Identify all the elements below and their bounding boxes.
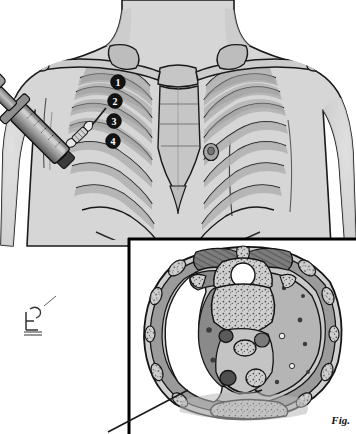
thoracentesis-figure: 1 2 3 4 [0,0,356,434]
esophagus [234,340,256,356]
marker-3-label: 3 [112,116,117,127]
marker-2-label: 2 [113,96,118,107]
cross-section-content [144,246,342,421]
nipple-right [204,144,219,161]
marker-4-label: 4 [111,136,116,147]
vertebral-body [211,284,274,334]
descending-aorta [219,330,233,343]
mediastinal-vessel-lower-left [220,371,236,386]
intercostal-marker-1[interactable]: 1 [111,75,126,90]
intercostal-marker-4[interactable]: 4 [106,134,121,149]
azygos-vein [255,333,270,347]
mediastinal-vessel-lower-right [246,369,266,387]
figure-caption: Fig. [330,414,350,426]
marker-1-label: 1 [116,77,121,88]
intercostal-marker-3[interactable]: 3 [107,114,122,129]
axial-cross-section-inset [108,238,356,434]
intercostal-marker-2[interactable]: 2 [108,94,123,109]
manubrium [158,65,198,87]
